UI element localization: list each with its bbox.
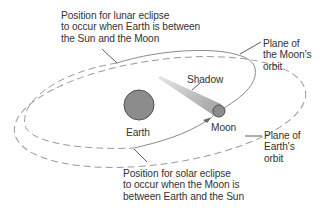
moon-orbit-plane-label: Plane of the Moon's orbit [263, 38, 312, 72]
earth-icon [124, 90, 154, 120]
shadow-label: Shadow [187, 74, 223, 85]
solar-eclipse-label: Position for solar eclipse to occur when… [123, 168, 244, 202]
lunar-eclipse-leader [102, 49, 117, 63]
earth-label: Earth [126, 127, 150, 138]
lunar-eclipse-label: Position for lunar eclipse to occur when… [61, 10, 200, 44]
moon-icon [213, 105, 225, 117]
moon-orbit-leader [240, 42, 261, 54]
solar-eclipse-leader [134, 149, 147, 162]
earth-orbit-plane-label: Plane of Earth's orbit [264, 130, 301, 164]
moon-label: Moon [211, 122, 236, 133]
moon-orbit-back-dashed [25, 63, 134, 148]
